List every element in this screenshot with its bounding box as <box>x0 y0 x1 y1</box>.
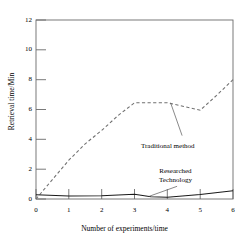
traditional-method-leader-line <box>171 103 183 136</box>
series-traditional-method <box>36 80 233 199</box>
researched-technology-annotation: Researched Technology <box>159 167 192 185</box>
y-axis-label: Retrieval time/Min <box>7 47 16 157</box>
y-tick-label-4: 4 <box>20 136 32 143</box>
x-tick-label-1: 1 <box>63 207 75 214</box>
x-tick-label-3: 3 <box>129 207 141 214</box>
chart-figure: 12 10 8 6 4 2 0 0 1 2 3 4 5 6 Number of … <box>0 0 249 241</box>
researched-technology-leader-line <box>149 186 177 196</box>
plot-frame <box>36 20 233 199</box>
chart-plot-area <box>0 0 249 241</box>
y-axis-ticks <box>36 20 46 199</box>
traditional-method-annotation: Traditional method <box>141 142 195 151</box>
y-tick-label-2: 2 <box>20 166 32 173</box>
researched-technology-annotation-line2: Technology <box>159 176 192 185</box>
y-tick-label-8: 8 <box>20 76 32 83</box>
x-tick-label-4: 4 <box>161 207 173 214</box>
y-tick-label-12: 12 <box>20 17 32 24</box>
x-axis-label: Number of experiments/time <box>0 224 249 233</box>
x-tick-label-0: 0 <box>30 207 42 214</box>
y-tick-label-10: 10 <box>20 46 32 53</box>
researched-technology-annotation-line1: Researched <box>159 167 192 176</box>
x-tick-label-5: 5 <box>194 207 206 214</box>
y-tick-label-0: 0 <box>20 196 32 203</box>
x-tick-label-6: 6 <box>227 207 239 214</box>
y-tick-label-6: 6 <box>20 106 32 113</box>
x-tick-label-2: 2 <box>96 207 108 214</box>
